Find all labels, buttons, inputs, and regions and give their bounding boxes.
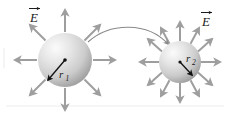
field-arrow-left-sw <box>30 80 46 96</box>
field-label-right-group: E <box>201 11 212 29</box>
field-arrow-right-sse <box>191 80 200 96</box>
field-arrow-right-nw <box>148 39 162 52</box>
field-label-left-group: E <box>29 7 40 25</box>
field-arrow-right-se <box>198 73 212 86</box>
field-arrow-right-nne <box>191 28 200 44</box>
radius-label-right-subscript: 2 <box>192 58 196 67</box>
field-arrow-right-ssw <box>161 80 170 96</box>
center-dot-left <box>63 58 67 62</box>
center-dot-right <box>178 60 181 63</box>
field-label-right: E <box>201 14 210 29</box>
radius-label-left: r <box>59 68 64 80</box>
radius-label-right: r <box>186 52 191 64</box>
field-arrow-right-sw <box>148 73 162 86</box>
curved-transfer-arrow <box>88 27 168 44</box>
physics-diagram-figure: E E r 1 r 2 <box>0 0 229 114</box>
field-arrow-left-se <box>85 80 101 96</box>
field-label-left: E <box>29 10 38 25</box>
radius-label-left-subscript: 1 <box>66 74 70 83</box>
diagram-canvas: E E r 1 r 2 <box>0 0 229 114</box>
field-arrow-right-ne <box>198 39 212 52</box>
field-arrow-left-nw <box>30 25 46 41</box>
